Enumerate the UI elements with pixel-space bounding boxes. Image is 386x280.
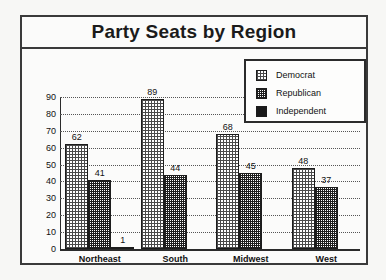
bar-value-label: 1: [120, 235, 125, 245]
y-axis-tick-label: 90: [46, 92, 56, 102]
legend-swatch-icon: [256, 70, 267, 81]
bar: [292, 168, 315, 249]
bar-value-label: 89: [147, 87, 157, 97]
legend-item: Republican: [246, 84, 364, 102]
x-axis-category-label: Midwest: [233, 254, 269, 264]
y-axis-tick-label: 50: [46, 160, 56, 170]
bar-value-label: 62: [72, 132, 82, 142]
bar: [239, 173, 262, 249]
x-axis-category-label: West: [316, 254, 337, 264]
x-axis-category-label: South: [163, 254, 189, 264]
legend-item: Democrat: [246, 66, 364, 84]
bar: [88, 180, 111, 249]
bar-value-label: 45: [246, 161, 256, 171]
y-axis: 0102030405060708090: [22, 49, 60, 263]
y-axis-tick-label: 70: [46, 126, 56, 136]
chart-figure: Party Seats by Region 010203040506070809…: [20, 15, 368, 265]
bar-value-label: 68: [223, 122, 233, 132]
bar-value-label: 41: [95, 168, 105, 178]
legend-label: Independent: [276, 106, 326, 116]
y-axis-tick-label: 40: [46, 176, 56, 186]
legend-swatch-icon: [256, 106, 267, 117]
bar-value-label: 44: [170, 163, 180, 173]
legend-item: Independent: [246, 102, 364, 120]
bar: [216, 134, 239, 249]
bar: [164, 175, 187, 249]
x-axis-line: [60, 249, 360, 251]
y-axis-tick-label: 60: [46, 143, 56, 153]
legend-label: Republican: [276, 88, 321, 98]
chart-title-bar: Party Seats by Region: [22, 17, 366, 49]
bar: [141, 99, 164, 249]
y-axis-tick-label: 80: [46, 109, 56, 119]
y-axis-tick-label: 20: [46, 210, 56, 220]
bar: [315, 187, 338, 249]
bar: [65, 144, 88, 249]
bar-value-label: 48: [298, 156, 308, 166]
y-axis-tick-label: 0: [51, 244, 56, 254]
legend-label: Democrat: [276, 70, 315, 80]
x-axis-category-label: Northeast: [79, 254, 121, 264]
legend: DemocratRepublicanIndependent: [244, 59, 366, 123]
page-title: Party Seats by Region: [92, 21, 297, 43]
legend-swatch-icon: [256, 88, 267, 99]
y-axis-tick-label: 30: [46, 193, 56, 203]
plot-region: 0102030405060708090 62411Northeast8944So…: [22, 49, 366, 263]
bar-value-label: 37: [321, 175, 331, 185]
y-axis-tick-label: 10: [46, 227, 56, 237]
